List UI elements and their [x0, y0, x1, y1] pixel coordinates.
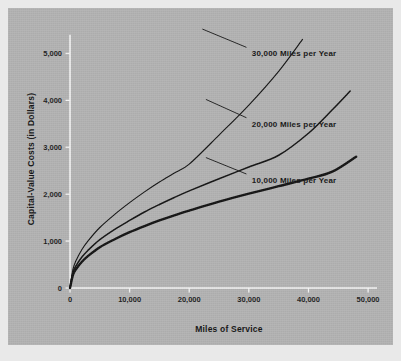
y-tick-label: 1,000 [43, 237, 62, 246]
series-leader-2 [206, 99, 247, 117]
y-axis-ticks: 01,0002,0003,0004,0005,000 [43, 49, 70, 293]
x-tick-label: 30,000 [237, 295, 260, 304]
series-group [70, 39, 356, 288]
series-label-2: 20,000 Miles per Year [252, 120, 337, 129]
y-tick-label: 3,000 [43, 143, 62, 152]
x-tick-label: 40,000 [297, 295, 320, 304]
y-tick-label: 4,000 [43, 96, 62, 105]
series-label-3: 30,000 Miles per Year [252, 49, 337, 58]
series-leader-3 [202, 29, 246, 47]
series-label-1: 10,000 Miles per Year [252, 176, 337, 185]
y-axis-title: Capital-Value Costs (in Dollars) [26, 93, 36, 226]
series-annotations: 10,000 Miles per Year20,000 Miles per Ye… [202, 29, 336, 185]
y-tick-label: 0 [58, 284, 62, 293]
y-tick-label: 2,000 [43, 190, 62, 199]
x-axis-title: Miles of Service [195, 324, 263, 334]
series-curve-3 [70, 39, 303, 288]
x-tick-label: 0 [68, 295, 72, 304]
chart-canvas: 01,0002,0003,0004,0005,000 010,00020,000… [8, 8, 393, 345]
x-tick-label: 50,000 [357, 295, 380, 304]
x-tick-label: 20,000 [178, 295, 201, 304]
x-tick-label: 10,000 [118, 295, 141, 304]
x-axis-ticks: 010,00020,00030,00040,00050,000 [68, 288, 380, 304]
axes [70, 35, 377, 288]
y-tick-label: 5,000 [43, 49, 62, 58]
series-leader-1 [206, 158, 247, 174]
figure-panel: 01,0002,0003,0004,0005,000 010,00020,000… [8, 8, 393, 345]
